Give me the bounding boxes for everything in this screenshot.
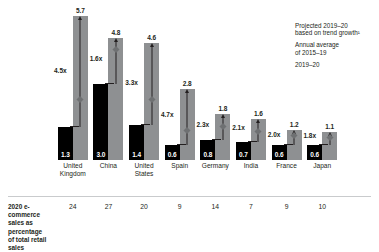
chart-legend: Projected 2019–20 based on trend growth¹…	[284, 22, 379, 73]
bar-value-annual-average: 0.6	[272, 151, 287, 158]
growth-arrow-icon	[108, 38, 123, 160]
black-square-marker-icon	[284, 42, 292, 50]
bar-pair: 0.62.8	[165, 8, 195, 160]
growth-arrow-icon	[73, 16, 88, 160]
footer-value: 9	[162, 203, 198, 211]
bar-pair: 0.81.8	[200, 8, 230, 160]
bar-2019-20: 2.8	[180, 89, 195, 160]
bar-value-2019-20: 1.2	[287, 121, 302, 128]
bar-group: 1.6x3.04.8	[91, 8, 127, 160]
footer-value: 24	[55, 203, 91, 211]
projected-diamond-icon	[291, 132, 298, 139]
legend-projected-line1: Projected 2019–20	[295, 22, 348, 29]
legend-annual-line2: of 2015–19	[295, 49, 327, 56]
diamond-marker-icon	[284, 23, 292, 31]
gray-square-marker-icon	[284, 61, 292, 69]
bar-value-annual-average: 1.3	[58, 151, 73, 158]
projected-diamond-icon	[219, 123, 226, 130]
footer-value: 10	[304, 203, 340, 211]
bar-annual-average: 0.7	[236, 142, 251, 160]
footer-value: 9	[269, 203, 305, 211]
bar-2019-20: 5.7	[73, 16, 88, 160]
legend-projected-line2: based on trend growth¹	[295, 29, 360, 36]
bar-annual-average: 0.6	[307, 145, 322, 160]
bar-pair: 1.44.6	[129, 8, 159, 160]
bar-value-2019-20: 2.8	[180, 80, 195, 87]
legend-item-projected-text: Projected 2019–20 based on trend growth¹	[295, 22, 360, 37]
footer-value: 27	[91, 203, 127, 211]
footer-row-label: 2020 e-commerce sales as percentage of t…	[8, 203, 55, 252]
bar-value-2019-20: 5.7	[73, 7, 88, 14]
bar-annual-average: 3.0	[93, 84, 108, 160]
bar-value-2019-20: 1.8	[215, 105, 230, 112]
bar-group: 2.3x0.81.8	[198, 8, 234, 160]
projected-diamond-icon	[148, 96, 155, 103]
bar-annual-average: 1.3	[58, 127, 73, 160]
bar-value-2019-20: 4.6	[144, 34, 159, 41]
bar-group: 2.1x0.71.6	[233, 8, 269, 160]
bar-2019-20: 4.8	[108, 38, 123, 160]
x-axis-label: Japan	[304, 162, 340, 179]
growth-arrow-icon	[251, 119, 266, 160]
x-axis-label: India	[233, 162, 269, 179]
bar-value-2019-20: 4.8	[108, 29, 123, 36]
growth-arrow-icon	[322, 132, 337, 160]
projected-diamond-icon	[77, 96, 84, 103]
x-axis-label: Germany	[198, 162, 234, 179]
bar-value-annual-average: 1.4	[129, 151, 144, 158]
bar-group: 3.3x1.44.6	[126, 8, 162, 160]
bar-value-2019-20: 1.6	[251, 110, 266, 117]
bar-2019-20: 1.1	[322, 132, 337, 160]
bar-value-annual-average: 0.6	[307, 151, 322, 158]
bar-2019-20: 1.6	[251, 119, 266, 160]
footer-divider	[8, 196, 371, 197]
bar-value-annual-average: 3.0	[93, 151, 108, 158]
legend-item-annual-average-text: Annual average of 2015–19	[295, 41, 339, 56]
bar-value-2019-20: 1.1	[322, 123, 337, 130]
bar-group: 4.7x0.62.8	[162, 8, 198, 160]
growth-arrow-icon	[144, 43, 159, 160]
bar-pair: 1.35.7	[58, 8, 88, 160]
legend-item-annual-average: Annual average of 2015–19	[284, 41, 379, 56]
projected-diamond-icon	[184, 127, 191, 134]
projected-diamond-icon	[112, 46, 119, 53]
legend-item-2019-20: 2019–20	[284, 61, 379, 69]
footer-row: 2020 e-commerce sales as percentage of t…	[8, 203, 379, 252]
legend-annual-line1: Annual average	[295, 41, 339, 48]
projected-diamond-icon	[255, 128, 262, 135]
legend-item-projected: Projected 2019–20 based on trend growth¹	[284, 22, 379, 37]
bar-2019-20: 4.6	[144, 43, 159, 160]
growth-arrow-icon	[215, 114, 230, 160]
footer-value: 7	[233, 203, 269, 211]
growth-arrow-icon	[180, 89, 195, 160]
bar-value-annual-average: 0.6	[165, 151, 180, 158]
footer-value: 14	[198, 203, 234, 211]
footer-label-line1: 2020 e-commerce	[8, 203, 40, 218]
bar-2019-20: 1.2	[287, 130, 302, 160]
bar-group: 4.5x1.35.7	[55, 8, 91, 160]
x-axis-label: China	[91, 162, 127, 179]
bar-annual-average: 0.6	[165, 145, 180, 160]
x-axis-label: France	[269, 162, 305, 179]
x-axis-labels: United KingdomChinaUnited StatesSpainGer…	[55, 162, 340, 179]
bar-2019-20: 1.8	[215, 114, 230, 160]
bar-pair: 0.71.6	[236, 8, 266, 160]
footer-row-values: 2427209147910	[55, 203, 340, 211]
footer-value: 20	[126, 203, 162, 211]
bar-annual-average: 0.8	[200, 140, 215, 160]
footer-label-line2: sales as percentage	[8, 219, 42, 234]
x-axis-label: Spain	[162, 162, 198, 179]
bar-annual-average: 1.4	[129, 125, 144, 160]
bar-value-annual-average: 0.7	[236, 151, 251, 158]
bar-pair: 3.04.8	[93, 8, 123, 160]
footer-label-line3: of total retail sales	[8, 236, 46, 251]
legend-item-2019-20-text: 2019–20	[295, 61, 320, 68]
projected-diamond-icon	[326, 134, 333, 141]
x-axis-label: United States	[126, 162, 162, 179]
x-axis-label: United Kingdom	[55, 162, 91, 179]
bar-annual-average: 0.6	[272, 145, 287, 160]
bar-value-annual-average: 0.8	[200, 151, 215, 158]
